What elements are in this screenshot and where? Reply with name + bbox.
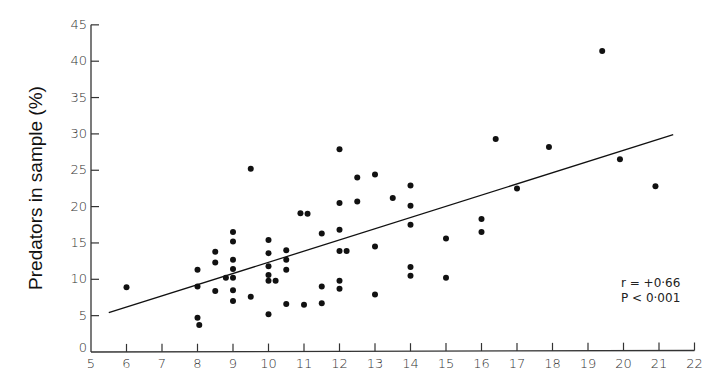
data-point — [443, 275, 449, 281]
data-point — [372, 244, 378, 250]
data-point — [652, 183, 658, 189]
data-point — [372, 292, 378, 298]
data-point — [195, 284, 201, 290]
data-point — [230, 298, 236, 304]
y-tick-label: 35 — [70, 90, 87, 105]
data-point — [266, 278, 272, 284]
data-point — [283, 257, 289, 263]
data-point — [408, 222, 414, 228]
data-point — [248, 166, 254, 172]
x-tick-label: 10 — [260, 356, 277, 371]
y-axis-title: Predators in sample (%) — [25, 86, 46, 290]
x-tick-label: 8 — [193, 356, 201, 371]
data-point — [390, 195, 396, 201]
data-point — [354, 175, 360, 181]
data-point — [195, 315, 201, 321]
data-point — [617, 156, 623, 162]
data-point — [337, 227, 343, 233]
data-point — [546, 144, 552, 150]
data-point — [212, 260, 218, 266]
x-tick-label: 17 — [509, 356, 526, 371]
data-point — [230, 287, 236, 293]
x-tick-label: 11 — [296, 356, 313, 371]
statistics-annotation: r = +0·66P < 0·001 — [621, 276, 680, 305]
data-point — [479, 229, 485, 235]
data-points — [124, 48, 659, 328]
data-point — [408, 264, 414, 270]
data-point — [266, 272, 272, 278]
data-point — [301, 302, 307, 308]
data-point — [319, 284, 325, 290]
data-point — [230, 238, 236, 244]
data-point — [212, 288, 218, 294]
data-point — [195, 267, 201, 273]
regression-line-path — [109, 135, 673, 313]
y-tick-label: 5 — [79, 308, 87, 323]
data-point — [305, 211, 311, 217]
x-tick-label: 15 — [438, 356, 455, 371]
data-point — [266, 311, 272, 317]
x-tick-label: 16 — [473, 356, 490, 371]
data-point — [337, 200, 343, 206]
x-tick-label: 7 — [158, 356, 166, 371]
data-point — [266, 263, 272, 269]
data-point — [248, 294, 254, 300]
data-point — [408, 273, 414, 279]
data-point — [230, 275, 236, 281]
data-point — [514, 185, 520, 191]
x-tick-label: 20 — [615, 356, 632, 371]
regression-line — [109, 135, 673, 313]
y-tick-label: 15 — [70, 235, 87, 250]
data-point — [599, 48, 605, 54]
x-tick-label: 6 — [122, 356, 130, 371]
data-point — [337, 248, 343, 254]
x-tick-label: 14 — [402, 356, 419, 371]
data-point — [230, 266, 236, 272]
data-point — [344, 248, 350, 254]
y-tick-label: 30 — [70, 126, 87, 141]
data-point — [319, 230, 325, 236]
data-point — [354, 199, 360, 205]
y-tick-label: 25 — [70, 162, 87, 177]
data-point — [283, 247, 289, 253]
data-point — [408, 203, 414, 209]
data-point — [196, 322, 202, 328]
scatter-plot: Predators in sample (%) 0510152025303540… — [0, 0, 724, 385]
y-tick-label: 40 — [70, 53, 87, 68]
data-point — [337, 278, 343, 284]
x-tick-label: 12 — [331, 356, 348, 371]
data-point — [297, 210, 303, 216]
correlation-text: r = +0·66 — [621, 276, 680, 290]
data-point — [337, 146, 343, 152]
data-point — [212, 249, 218, 255]
data-point — [230, 257, 236, 263]
x-axis-line — [91, 351, 695, 353]
y-axis-label: Predators in sample (%) — [25, 86, 46, 290]
x-tick-label: 22 — [686, 356, 703, 371]
x-tick-label: 18 — [544, 356, 561, 371]
data-point — [273, 278, 279, 284]
data-point — [124, 284, 130, 290]
p-value-text: P < 0·001 — [621, 291, 680, 305]
x-tick-label: 21 — [651, 356, 668, 371]
y-tick-label: 10 — [70, 271, 87, 286]
data-point — [266, 237, 272, 243]
data-point — [493, 136, 499, 142]
data-point — [223, 275, 229, 281]
data-point — [283, 267, 289, 273]
data-point — [408, 183, 414, 189]
x-tick-label: 13 — [367, 356, 384, 371]
x-tick-label: 9 — [229, 356, 237, 371]
data-point — [319, 300, 325, 306]
y-tick-label: 20 — [70, 199, 87, 214]
axes: 0510152025303540455678910111213141516171… — [70, 17, 702, 371]
data-point — [337, 286, 343, 292]
data-point — [283, 301, 289, 307]
data-point — [479, 216, 485, 222]
data-point — [372, 172, 378, 178]
y-tick-label: 0 — [79, 340, 87, 355]
data-point — [443, 236, 449, 242]
x-tick-label: 19 — [580, 356, 597, 371]
y-tick-label: 45 — [70, 17, 87, 32]
data-point — [266, 250, 272, 256]
